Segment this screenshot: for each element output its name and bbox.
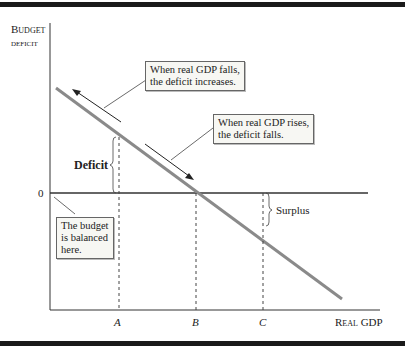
surplus-label: Surplus [276,204,310,216]
callout-falls: When real GDP falls, the deficit increas… [145,61,245,91]
callout-pointer-rises [171,128,213,160]
diagram-canvas [0,0,405,352]
y-axis-label-line1: Budget [11,23,45,35]
callout-rises: When real GDP rises, the deficit falls. [213,114,314,144]
callout-falls-line1: When real GDP falls, [150,64,240,76]
callout-pointer-falls [104,80,146,108]
arrowhead-up-left-icon [72,89,81,96]
y-axis-label-line2: deficit [11,37,38,49]
callout-balanced-line3: here. [61,244,109,256]
callout-pointer-balanced [54,197,75,214]
tick-a: A [114,316,121,328]
deficit-bracket [110,137,116,193]
x-axis-label: Real GDP [335,316,383,328]
tick-b: B [192,316,199,328]
callout-balanced-line2: is balanced [61,232,109,244]
callout-falls-line2: the deficit increases. [150,76,240,88]
surplus-bracket [266,193,272,226]
callout-rises-line1: When real GDP rises, [218,117,309,129]
callout-balanced: The budget is balanced here. [56,217,114,259]
zero-label: 0 [38,187,44,199]
deficit-label: Deficit [74,159,108,171]
callout-balanced-line1: The budget [61,220,109,232]
tick-c: C [259,316,266,328]
callout-rises-line2: the deficit falls. [218,129,309,141]
